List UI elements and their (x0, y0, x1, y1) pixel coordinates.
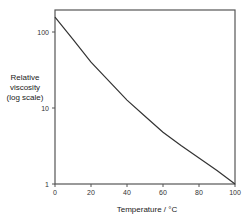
y-tick-label: 10 (41, 105, 49, 112)
x-tick-label: 40 (123, 189, 131, 196)
data-line (55, 17, 235, 184)
x-axis-label: Temperature / °C (117, 205, 178, 214)
x-tick-label: 0 (53, 189, 57, 196)
x-tick-label: 60 (159, 189, 167, 196)
y-tick-label: 1 (45, 181, 49, 188)
y-tick-label: 100 (37, 29, 49, 36)
y-axis-label-line: Relative (0, 73, 50, 83)
x-tick-label: 100 (229, 189, 241, 196)
x-axis-ticks: 020406080100 (53, 184, 241, 196)
y-axis-label: Relative viscosity (log scale) (0, 73, 50, 103)
x-tick-label: 80 (195, 189, 203, 196)
y-axis-ticks: 110100 (37, 29, 55, 188)
x-tick-label: 20 (87, 189, 95, 196)
plot-frame (55, 10, 235, 184)
viscosity-chart: 110100 020406080100 Temperature / °C (0, 0, 246, 216)
y-axis-label-line: viscosity (0, 83, 50, 93)
y-axis-label-line: (log scale) (0, 93, 50, 103)
